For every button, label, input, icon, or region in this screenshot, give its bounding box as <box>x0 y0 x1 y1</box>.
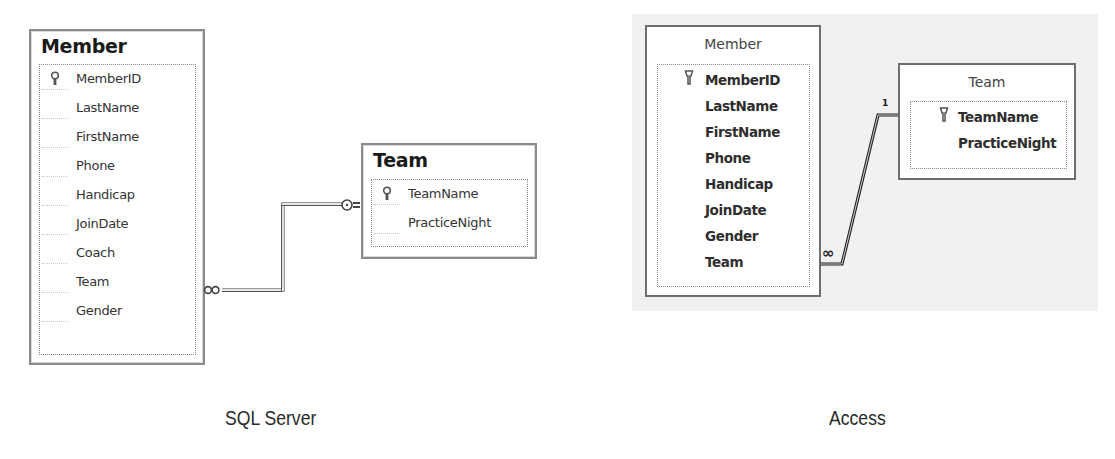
one-label: 1 <box>882 98 888 108</box>
access-caption: Access <box>829 407 886 430</box>
access-relationship-connector[interactable] <box>0 0 1115 459</box>
many-label: ∞ <box>822 244 835 262</box>
